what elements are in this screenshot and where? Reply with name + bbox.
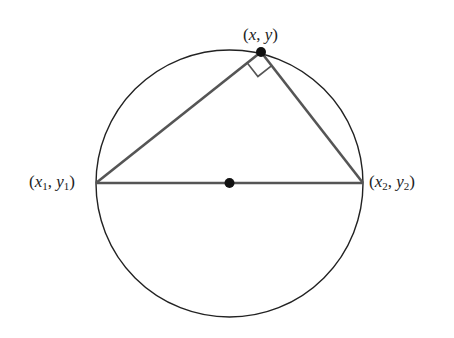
right-angle-marker <box>247 63 271 77</box>
top-point <box>256 47 266 57</box>
label-left-point: (x1, y1) <box>29 172 75 192</box>
diagram-canvas <box>0 0 454 338</box>
center-point <box>225 178 235 188</box>
label-right-point: (x2, y2) <box>369 172 415 192</box>
triangle-left-side <box>96 52 261 183</box>
triangle-right-side <box>261 52 363 183</box>
label-top-point: (x, y) <box>243 25 278 45</box>
